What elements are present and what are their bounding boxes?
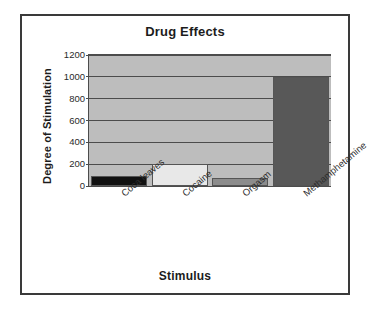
x-axis-title: Stimulus xyxy=(22,269,348,283)
y-tick-mark xyxy=(86,55,89,56)
y-tick-label: 800 xyxy=(45,94,85,104)
y-tick-label: 600 xyxy=(45,116,85,126)
gridline xyxy=(89,55,331,56)
y-tick-mark xyxy=(86,164,89,165)
bar-methamphetamine xyxy=(273,77,329,186)
y-tick-label: 400 xyxy=(45,138,85,148)
chart-figure: Drug Effects Degree of Stimulation 02004… xyxy=(20,14,350,295)
y-tick-label: 0 xyxy=(45,181,85,191)
plot-area: 020040060080010001200 xyxy=(88,54,331,187)
chart-title: Drug Effects xyxy=(22,24,348,39)
y-tick-label: 200 xyxy=(45,159,85,169)
y-tick-label: 1200 xyxy=(45,50,85,60)
y-tick-mark xyxy=(86,186,89,187)
y-tick-mark xyxy=(86,98,89,99)
y-tick-mark xyxy=(86,142,89,143)
y-tick-mark xyxy=(86,120,89,121)
y-tick-mark xyxy=(86,76,89,77)
y-tick-label: 1000 xyxy=(45,72,85,82)
